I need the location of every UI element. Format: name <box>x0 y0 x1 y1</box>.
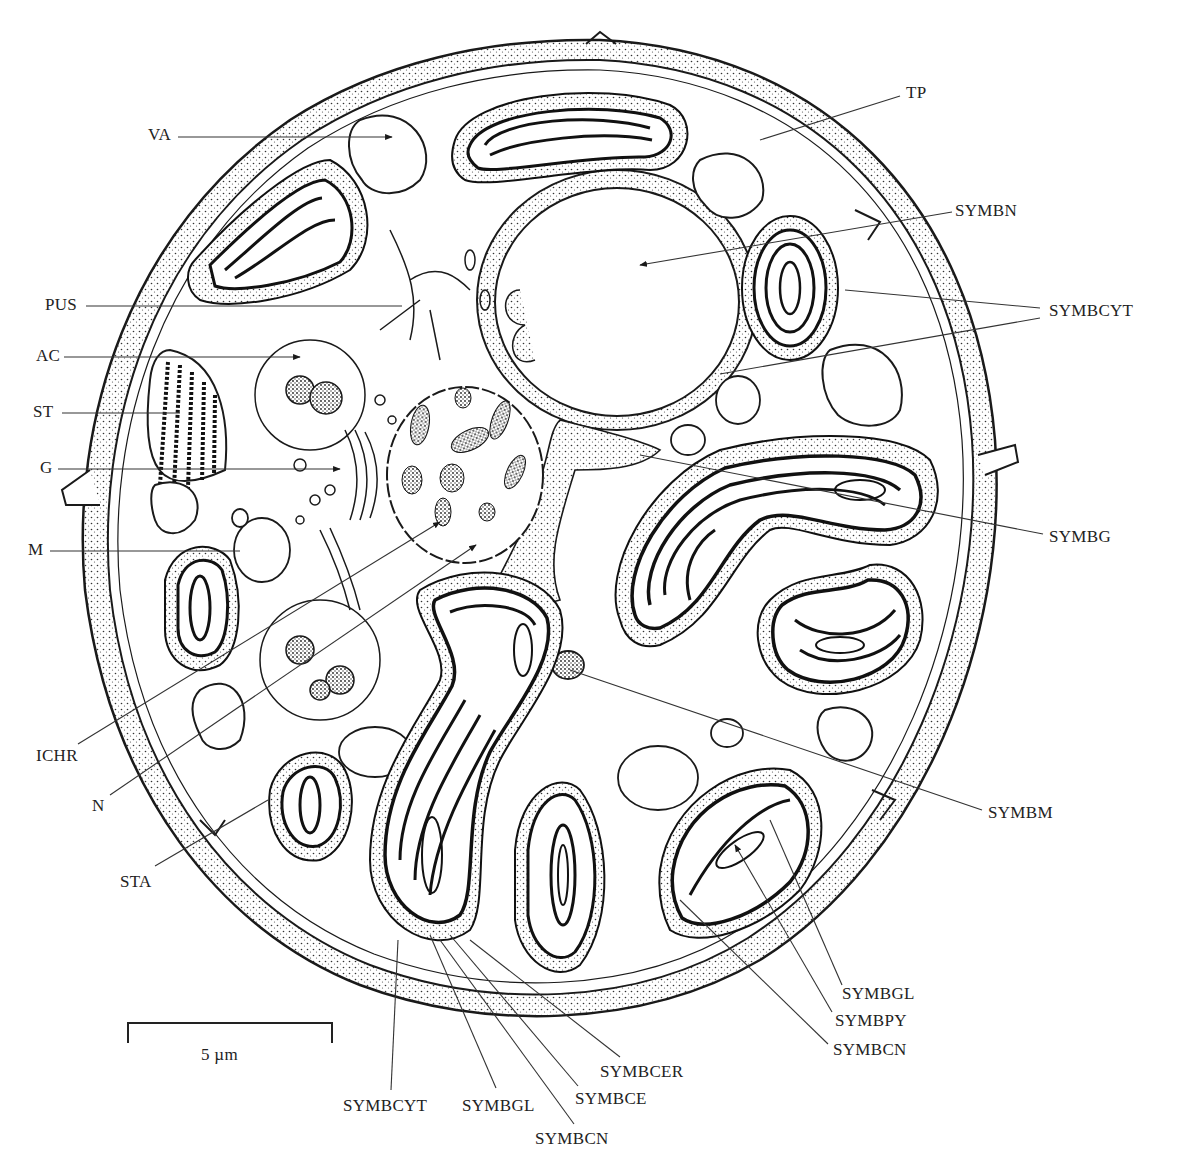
label-va: VA <box>148 125 171 145</box>
label-symbcn_r: SYMBCN <box>833 1040 907 1060</box>
label-m: M <box>28 540 43 560</box>
label-symbg: SYMBG <box>1049 527 1111 547</box>
cell-diagram: VAPUSACSTGMICHRNSTATPSYMBNSYMBCYTSYMBGSY… <box>0 0 1177 1174</box>
label-n: N <box>92 796 105 816</box>
label-g: G <box>40 458 53 478</box>
chloroplast-bottom-middle <box>515 783 604 973</box>
label-symbcer: SYMBCER <box>600 1062 683 1082</box>
label-symbcyt_b: SYMBCYT <box>343 1096 427 1116</box>
label-ichr: ICHR <box>36 746 78 766</box>
host-nucleus <box>387 387 543 563</box>
label-tp: TP <box>906 83 926 103</box>
scale-bar-line <box>128 1023 332 1043</box>
scale-bar-label: 5 µm <box>201 1045 238 1065</box>
chloroplast-lower-left <box>269 753 352 861</box>
label-st: ST <box>33 402 53 422</box>
cell-drawing <box>0 0 1177 1174</box>
label-symbgl_b: SYMBGL <box>462 1096 535 1116</box>
label-symbn: SYMBN <box>955 201 1017 221</box>
label-ac: AC <box>36 346 60 366</box>
label-symbce: SYMBCE <box>575 1089 647 1109</box>
label-symbpy: SYMBPY <box>835 1011 907 1031</box>
chloroplast-right <box>742 216 838 360</box>
label-sta: STA <box>120 872 152 892</box>
label-symbcn_b: SYMBCN <box>535 1129 609 1149</box>
label-symbcyt_r: SYMBCYT <box>1049 301 1133 321</box>
label-symbgl_r: SYMBGL <box>842 984 915 1004</box>
label-symbm: SYMBM <box>988 803 1053 823</box>
scale-bar <box>128 1023 332 1043</box>
label-pus: PUS <box>45 295 77 315</box>
